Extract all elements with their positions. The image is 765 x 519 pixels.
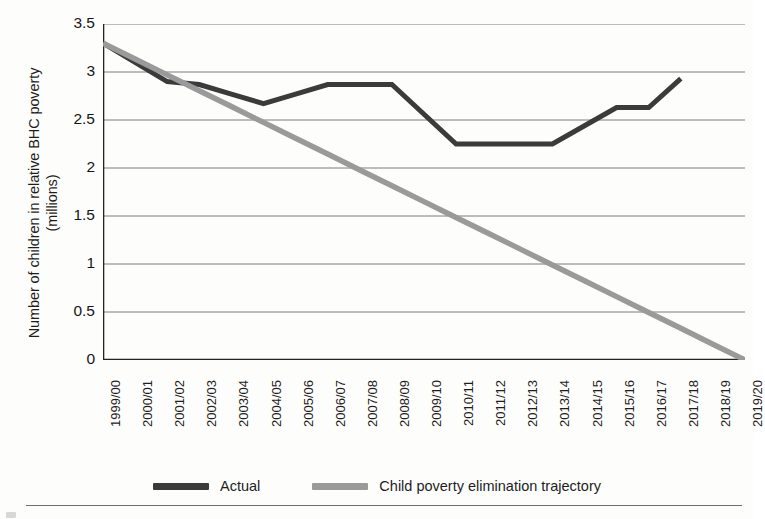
series-line	[103, 43, 681, 144]
y-axis-title: Number of children in relative BHC pover…	[25, 23, 61, 383]
legend-label: Child poverty elimination trajectory	[379, 478, 601, 494]
legend-swatch	[153, 483, 209, 490]
x-axis-tick-label: 2008/09	[397, 380, 412, 476]
chart-legend: ActualChild poverty elimination trajecto…	[0, 478, 754, 494]
footer-divider	[26, 505, 742, 506]
x-axis-tick-label: 2003/04	[236, 380, 251, 476]
legend-label: Actual	[220, 478, 260, 494]
plot-area	[103, 24, 745, 360]
x-axis-tick-label: 2004/05	[269, 380, 284, 476]
legend-item[interactable]: Child poverty elimination trajectory	[312, 478, 601, 494]
x-axis-tick-label: 2001/02	[172, 380, 187, 476]
x-axis-tick-label: 2007/08	[365, 380, 380, 476]
x-axis-tick-label: 2016/17	[654, 380, 669, 476]
x-axis-tick-label: 2017/18	[686, 380, 701, 476]
legend-item[interactable]: Actual	[153, 478, 260, 494]
x-axis-tick-label: 2000/01	[140, 380, 155, 476]
chart-svg	[103, 24, 745, 360]
x-axis-tick-label: 2012/13	[525, 380, 540, 476]
page-artifact-mark	[6, 512, 16, 518]
x-axis-tick-label: 2018/19	[718, 380, 733, 476]
x-axis-tick-label: 2010/11	[461, 380, 476, 476]
legend-swatch	[312, 483, 368, 490]
x-axis-tick-label: 2005/06	[301, 380, 316, 476]
x-axis-tick-label: 2015/16	[622, 380, 637, 476]
x-axis-tick-labels: 1999/002000/012001/022002/032003/042004/…	[0, 366, 754, 476]
x-axis-tick-label: 2009/10	[429, 380, 444, 476]
x-axis-tick-label: 2019/20	[750, 380, 765, 476]
x-axis-tick-label: 2011/12	[493, 380, 508, 476]
x-axis-tick-label: 2014/15	[590, 380, 605, 476]
x-axis-tick-label: 2002/03	[204, 380, 219, 476]
x-axis-tick-label: 2013/14	[557, 380, 572, 476]
x-axis-tick-label: 2006/07	[333, 380, 348, 476]
x-axis-tick-label: 1999/00	[108, 380, 123, 476]
gridlines	[103, 24, 745, 312]
